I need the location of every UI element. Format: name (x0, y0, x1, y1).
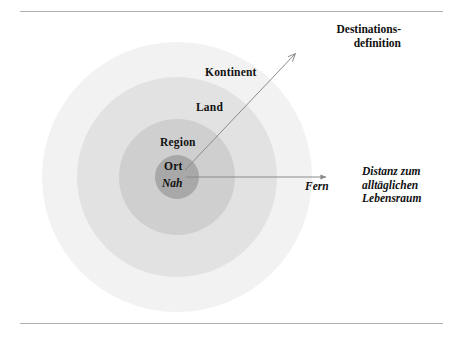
distanz-line-2: alltäglichen (362, 179, 418, 191)
distanz-line-1: Distanz zum (362, 165, 420, 177)
axis-label-destinations-definition: Destinations-definition (305, 23, 401, 50)
axis-label-distanz-zum-alltaeglichen-lebensraum: Distanz zum alltäglichen Lebensraum (362, 165, 457, 206)
figure-container: Kontinent Land Region Ort Nah Fern Desti… (0, 0, 460, 340)
scale-label-fern: Fern (305, 180, 329, 194)
ring-label-ort: Ort (164, 160, 182, 174)
ring-label-region: Region (160, 136, 196, 150)
distanz-line-3: Lebensraum (362, 192, 421, 204)
scale-label-nah: Nah (162, 177, 182, 191)
ring-label-land: Land (196, 101, 223, 115)
ring-label-kontinent: Kontinent (205, 66, 257, 80)
